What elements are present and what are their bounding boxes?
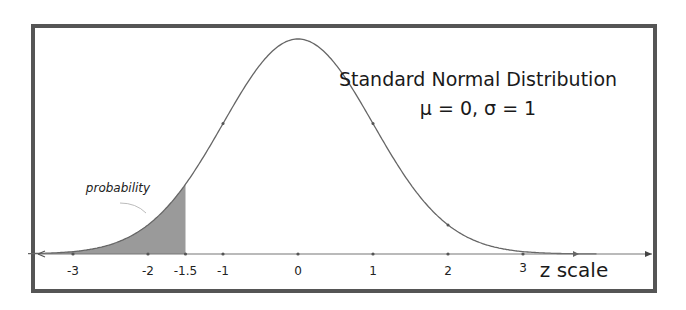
tick-label: 3	[519, 261, 527, 275]
curve-point	[372, 122, 375, 125]
tick-mark	[446, 252, 449, 255]
curve-point	[222, 122, 225, 125]
tick-label: -2	[142, 264, 154, 278]
tick-mark	[221, 252, 224, 255]
tick-mark	[146, 252, 149, 255]
tick-mark	[371, 252, 374, 255]
x-axis-label: z scale	[540, 258, 608, 282]
tick-mark	[521, 252, 524, 255]
tick-label: -3	[67, 264, 79, 278]
tick-label: 2	[444, 264, 452, 278]
tick-mark	[296, 252, 299, 255]
chart-canvas: -3-2-1.5-10123 Standard Normal Distribut…	[0, 0, 686, 310]
tick-label: 0	[294, 264, 302, 278]
probability-annotation: probability	[85, 181, 151, 195]
curve-point	[447, 223, 450, 226]
tick-mark	[71, 252, 74, 255]
tick-label: 1	[369, 264, 377, 278]
tick-label: -1	[217, 264, 229, 278]
tick-label: -1.5	[174, 264, 197, 278]
chart-subtitle: μ = 0, σ = 1	[420, 97, 536, 119]
chart-title: Standard Normal Distribution	[339, 68, 617, 90]
tick-mark	[184, 252, 187, 255]
